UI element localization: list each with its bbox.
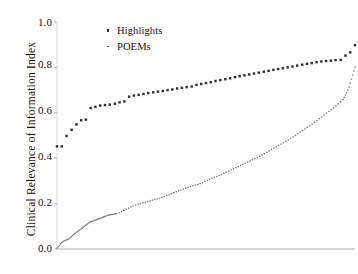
y-tick-label-1_0: 1.0	[26, 16, 52, 28]
y-axis-title: Clinical Relevance of Information Index	[25, 29, 37, 249]
legend-marker-poems-icon	[103, 46, 113, 48]
y-axis-tick-marks	[54, 22, 57, 249]
series-highlights-points	[56, 44, 356, 148]
legend-entry-poems: POEMs	[103, 40, 162, 53]
series-poems-points	[56, 66, 355, 248]
chart-figure: 1.0 0.8 0.6 0.4 0.2 0.0 Clinical Relevan…	[0, 0, 358, 274]
scatter-plot-canvas	[0, 0, 358, 274]
legend-label-highlights: Highlights	[117, 25, 162, 36]
chart-legend: Highlights POEMs	[103, 24, 162, 56]
legend-marker-highlights-icon	[103, 29, 113, 32]
legend-label-poems: POEMs	[117, 41, 151, 52]
legend-entry-highlights: Highlights	[103, 24, 162, 37]
